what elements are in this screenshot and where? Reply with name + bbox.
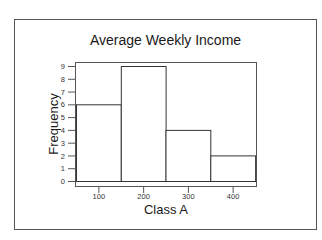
y-tick-label: 9 bbox=[61, 62, 65, 71]
y-tick-label: 5 bbox=[61, 113, 65, 122]
histogram-bar bbox=[211, 156, 256, 182]
histogram-bar bbox=[121, 67, 166, 182]
x-tick-label: 300 bbox=[182, 192, 195, 201]
y-tick-label: 3 bbox=[61, 139, 65, 148]
y-tick-label: 6 bbox=[61, 100, 65, 109]
y-tick-label: 2 bbox=[61, 152, 65, 161]
histogram-plot: 0123456789 100200300400 Frequency Class … bbox=[0, 0, 322, 240]
y-axis-ticks: 0123456789 bbox=[61, 62, 76, 186]
histogram-bars bbox=[77, 67, 256, 182]
histogram-bar bbox=[166, 130, 211, 181]
y-tick-label: 8 bbox=[61, 75, 65, 84]
y-tick-label: 0 bbox=[61, 177, 65, 186]
y-tick-label: 1 bbox=[61, 164, 65, 173]
x-axis-ticks: 100200300400 bbox=[93, 187, 240, 202]
y-axis-title: Frequency bbox=[46, 93, 61, 155]
x-tick-label: 400 bbox=[227, 192, 240, 201]
x-tick-label: 100 bbox=[93, 192, 106, 201]
y-tick-label: 7 bbox=[61, 88, 65, 97]
x-tick-label: 200 bbox=[137, 192, 150, 201]
y-tick-label: 4 bbox=[61, 126, 65, 135]
histogram-bar bbox=[77, 105, 122, 182]
x-axis-title: Class A bbox=[144, 202, 188, 217]
